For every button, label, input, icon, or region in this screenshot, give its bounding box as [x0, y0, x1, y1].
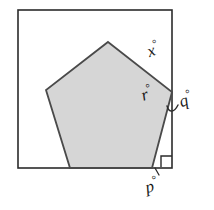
shaded-pentagon: [46, 42, 172, 168]
right-angle-marker: [161, 156, 172, 167]
geometry-figure: x° r° q° p°: [0, 0, 214, 210]
